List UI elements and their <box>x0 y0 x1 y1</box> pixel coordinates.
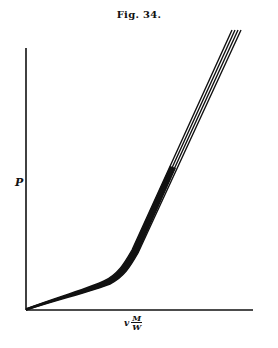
curve-bundle <box>26 30 241 310</box>
curve-3 <box>26 30 238 310</box>
x-axis-label-denominator: W <box>132 323 141 331</box>
plot-area <box>0 0 278 348</box>
x-axis-label: v M W <box>124 314 142 331</box>
x-axis-label-fraction: M W <box>131 314 142 331</box>
curve-bundle-fill <box>26 166 176 310</box>
y-axis-label: P <box>15 176 23 189</box>
curve-4 <box>26 30 241 310</box>
curve-2 <box>26 30 235 309</box>
x-axis-label-prefix: v <box>124 318 129 328</box>
